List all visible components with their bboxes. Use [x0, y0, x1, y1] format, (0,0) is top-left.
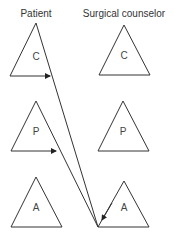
counselor-triangle-a: A: [98, 181, 149, 227]
patient-triangle-p: P: [11, 101, 56, 151]
patient-triangle-a: A: [11, 177, 62, 227]
patient-column-label: Patient: [20, 8, 51, 19]
counselor-a-label: A: [121, 202, 128, 213]
transaction-diagram: Patient Surgical counselor C P A C P A: [0, 0, 174, 240]
patient-c-label: C: [32, 51, 39, 62]
transaction-line-p-to-a: [36, 101, 98, 227]
patient-a-label: A: [33, 202, 40, 213]
counselor-triangle-c: C: [99, 25, 150, 75]
counselor-column-label: Surgical counselor: [83, 8, 166, 19]
transaction-line-c-to-a: [36, 23, 98, 227]
counselor-c-label: C: [120, 50, 127, 61]
counselor-p-label: P: [120, 126, 127, 137]
patient-p-label: P: [33, 126, 40, 137]
counselor-triangle-p: P: [98, 101, 149, 151]
counselor-a-arrow: [102, 203, 112, 220]
